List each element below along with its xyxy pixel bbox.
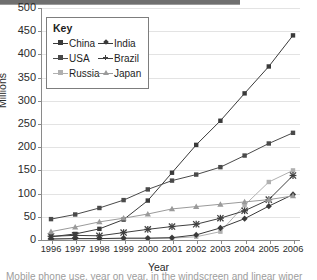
data-point-square — [267, 64, 271, 68]
y-axis-tick-label: 400 — [18, 48, 36, 59]
data-point-cross — [241, 207, 248, 214]
legend-item-label: China — [69, 38, 95, 49]
x-axis-tick-label: 2002 — [186, 244, 207, 254]
data-point-square — [73, 212, 77, 216]
data-point-square — [218, 119, 222, 123]
data-point-cross — [144, 226, 151, 233]
data-point-square — [291, 131, 295, 135]
x-axis-tick-label: 2003 — [210, 244, 231, 254]
legend-item-label: India — [114, 38, 136, 49]
y-axis-tick-label: 300 — [18, 95, 36, 106]
x-axis-labels: 1996199719981999200020012002200320042005… — [41, 244, 299, 258]
y-axis-tick — [38, 240, 42, 241]
data-point-square — [121, 198, 125, 202]
legend-marker-cross-icon — [98, 54, 113, 63]
x-axis-tick-label: 2005 — [258, 244, 279, 254]
data-point-cross — [193, 221, 200, 228]
legend-marker-square-icon — [53, 54, 68, 63]
data-point-square — [49, 217, 53, 221]
legend-items: ChinaIndiaUSABrazilRussiaJapan — [53, 36, 143, 81]
y-axis-tick-label: 50 — [24, 211, 36, 222]
data-point-square — [291, 168, 295, 172]
legend-item-china[interactable]: China — [53, 36, 98, 51]
data-point-square — [146, 198, 150, 202]
x-axis-tick-label: 1997 — [65, 244, 86, 254]
legend-item-brazil[interactable]: Brazil — [98, 51, 143, 66]
x-axis-tick-label: 1999 — [113, 244, 134, 254]
legend: Key ChinaIndiaUSABrazilRussiaJapan — [46, 17, 149, 89]
y-axis-tick-label: 150 — [18, 164, 36, 175]
legend-item-label: Brazil — [114, 53, 139, 64]
legend-item-india[interactable]: India — [98, 36, 143, 51]
legend-marker-square-icon — [53, 39, 68, 48]
x-axis-tick-label: 2004 — [234, 244, 255, 254]
legend-marker-glyph — [58, 70, 63, 75]
x-axis-tick-label: 1998 — [89, 244, 110, 254]
data-point-square — [170, 171, 174, 175]
y-axis-title: Millions — [0, 73, 8, 108]
chart-page: 050100150200250300350400450500 Millions … — [0, 0, 317, 280]
data-point-square — [242, 153, 246, 157]
data-point-square — [291, 33, 295, 37]
data-point-diamond — [242, 215, 248, 221]
y-axis-tick-label: 200 — [18, 141, 36, 152]
x-axis-tick-label: 2006 — [283, 244, 304, 254]
series-india — [48, 191, 296, 240]
data-point-cross — [169, 223, 176, 230]
y-axis-tick-label: 250 — [18, 118, 36, 129]
y-axis-labels: 050100150200250300350400450500 — [0, 0, 41, 248]
data-point-square — [218, 165, 222, 169]
legend-marker-diamond-icon — [98, 39, 113, 48]
y-axis-tick-label: 350 — [18, 72, 36, 83]
data-point-cross — [290, 172, 297, 179]
y-axis-tick-label: 450 — [18, 25, 36, 36]
data-point-diamond — [266, 203, 272, 209]
y-axis-tick-label: 0 — [30, 234, 36, 245]
legend-marker-triangle-icon — [98, 69, 113, 78]
data-point-cross — [217, 215, 224, 222]
legend-item-label: Japan — [114, 68, 141, 79]
legend-marker-glyph — [103, 55, 108, 60]
data-point-square — [97, 206, 101, 210]
legend-item-russia[interactable]: Russia — [53, 66, 98, 81]
legend-item-label: USA — [69, 53, 90, 64]
data-point-square — [146, 187, 150, 191]
legend-marker-glyph — [58, 55, 63, 60]
data-point-square — [242, 91, 246, 95]
legend-title: Key — [53, 22, 143, 34]
data-point-square — [194, 172, 198, 176]
data-point-square — [170, 178, 174, 182]
legend-marker-glyph — [58, 40, 63, 45]
legend-item-usa[interactable]: USA — [53, 51, 98, 66]
y-axis-tick-label: 500 — [18, 2, 36, 13]
x-axis-tick-label: 2001 — [162, 244, 183, 254]
data-point-square — [267, 180, 271, 184]
legend-item-label: Russia — [69, 68, 100, 79]
page-caption: Mobile phone use, year on year, in the w… — [6, 272, 317, 280]
data-point-square — [267, 141, 271, 145]
data-point-square — [194, 143, 198, 147]
x-axis-tick-label: 2000 — [137, 244, 158, 254]
x-axis-tick-label: 1996 — [41, 244, 62, 254]
y-axis-tick-label: 100 — [18, 188, 36, 199]
legend-item-japan[interactable]: Japan — [98, 66, 143, 81]
legend-marker-glyph — [103, 70, 109, 75]
legend-marker-square-icon — [53, 69, 68, 78]
data-point-square — [97, 227, 101, 231]
